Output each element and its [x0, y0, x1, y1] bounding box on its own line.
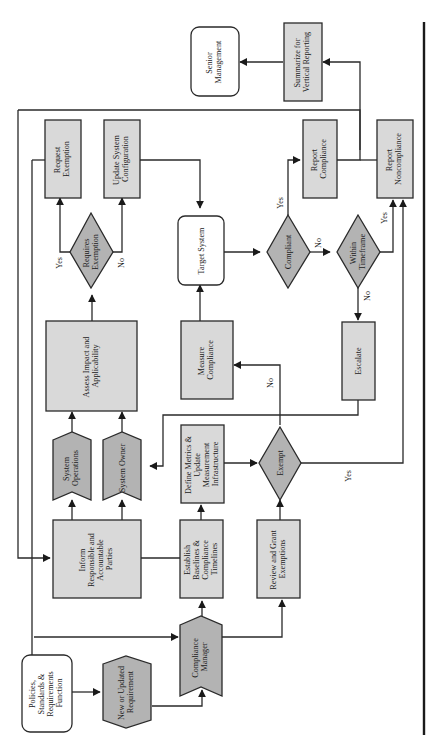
node-assess-impact: Assess Impact and Applicability: [46, 321, 137, 411]
node-update-configuration: Update System Configuration: [104, 120, 140, 198]
node-report-compliance: Report Compliance: [303, 120, 337, 198]
node-requires-exemption-decision: Requires Exemption: [70, 213, 113, 288]
node-establish-baselines: Establish Baselines & Compliance Timelin…: [180, 520, 223, 598]
node-escalate: Escalate: [342, 322, 375, 400]
node-within-timeframe-decision: Within Timeframe: [337, 215, 380, 288]
node-request-exemption: Request Exemption: [45, 120, 81, 198]
svg-text:Measure Compliance: Measure Compliance: [197, 340, 215, 380]
node-compliance-manager: Compliance Manager: [180, 616, 222, 696]
svg-text:Request Exemption: Request Exemption: [53, 141, 71, 177]
node-system-operations: System Operations: [53, 432, 91, 500]
svg-text:New or Updated Requireme: New or Updated Requirement: [117, 664, 135, 720]
svg-text:Escalate: Escalate: [354, 347, 363, 375]
svg-text:Exempt: Exempt: [276, 450, 285, 476]
svg-text:Target System: Target System: [197, 227, 206, 274]
svg-text:Update System Configurat: Update System Configuration: [112, 133, 130, 185]
node-exempt-decision: Exempt: [259, 427, 301, 500]
edge-label-compliant-no: No: [314, 238, 323, 248]
compliance-flowchart: Policies, Standards & Requirements Funct…: [0, 0, 434, 749]
node-target-system: Target System: [178, 216, 224, 285]
node-report-noncompliance: Report Noncompliance: [377, 120, 413, 198]
node-system-owner: System Owner: [103, 432, 141, 500]
svg-text:Define Metrics & Update: Define Metrics & Update Measurement Infr…: [184, 434, 220, 494]
node-summarize-reporting: Summarize for Vertical Reporting: [284, 23, 322, 101]
node-senior-management: Senior Management: [191, 27, 239, 96]
svg-text:Summarize for Vertical R: Summarize for Vertical Reporting: [293, 32, 311, 92]
edge-label-exempt-yes: Yes: [344, 470, 353, 482]
edge-label-requires-yes: Yes: [55, 257, 64, 269]
node-policies: Policies, Standards & Requirements Funct…: [22, 655, 72, 732]
edge-label-timeframe-no: No: [363, 291, 372, 301]
node-new-requirement: New or Updated Requirement: [103, 656, 151, 728]
node-define-metrics: Define Metrics & Update Measurement Infr…: [181, 425, 224, 503]
svg-text:Compliant: Compliant: [284, 234, 293, 269]
node-measure-compliance: Measure Compliance: [181, 321, 233, 399]
svg-text:System Operations: System Operations: [62, 450, 80, 486]
edge-label-compliant-yes: Yes: [276, 197, 285, 209]
edge-label-requires-no: No: [117, 258, 126, 268]
node-inform-parties: Inform Responsible and Accountable Parti…: [53, 520, 141, 598]
svg-text:Requires Exemption: Requires Exemption: [82, 234, 100, 270]
edge-label-timeframe-yes: Yes: [380, 212, 389, 224]
svg-text:System Owner: System Owner: [118, 444, 127, 493]
svg-text:Establish Baselines &: Establish Baselines & Compliance Timelin…: [183, 538, 219, 580]
node-review-exemptions: Review and Grant Exemptions: [257, 520, 300, 598]
edge-label-exempt-no: No: [266, 378, 275, 388]
node-compliant-decision: Compliant: [267, 215, 310, 288]
